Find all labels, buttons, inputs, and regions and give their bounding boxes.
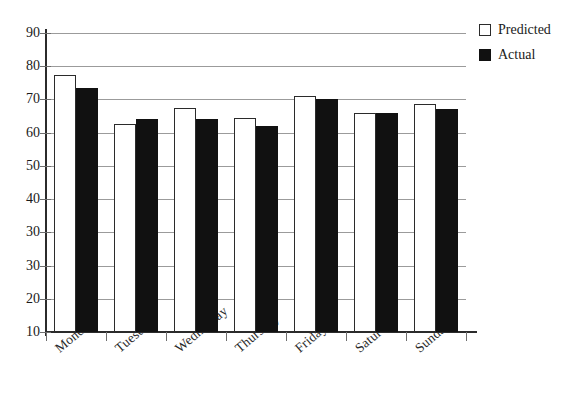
y-tick-mark (40, 99, 51, 100)
x-tick-mark (46, 332, 47, 341)
legend-label-predicted: Predicted (498, 23, 551, 37)
x-tick-mark (346, 332, 347, 341)
y-tick-label: 70 (6, 92, 40, 106)
y-tick-mark (40, 166, 51, 167)
y-tick-mark (40, 33, 51, 34)
bar-actual-tuesday[interactable] (136, 119, 158, 332)
bar-actual-wednesday[interactable] (196, 119, 218, 332)
y-tick-mark (40, 299, 51, 300)
legend-item-predicted[interactable]: Predicted (479, 22, 563, 38)
x-tick-mark (226, 332, 227, 341)
y-tick-label: 20 (6, 292, 40, 306)
bar-actual-monday[interactable] (76, 88, 98, 332)
legend-item-actual[interactable]: Actual (479, 47, 563, 63)
y-axis-labels: 90807060504030302010 (0, 0, 40, 412)
x-tick-mark (166, 332, 167, 341)
bar-group (346, 33, 406, 332)
y-tick-label: 10 (6, 325, 40, 339)
y-tick-label: 50 (6, 159, 40, 173)
bar-chart: 90807060504030302010 Predicted Actual Mo… (0, 0, 563, 412)
y-tick-mark (40, 66, 51, 67)
y-tick-mark (40, 266, 51, 267)
bar-predicted-saturday[interactable] (354, 113, 376, 332)
y-tick-label: 80 (6, 59, 40, 73)
bar-group (166, 33, 226, 332)
bar-predicted-thursday[interactable] (234, 118, 256, 332)
bar-group (406, 33, 466, 332)
y-tick-mark (40, 232, 51, 233)
bar-actual-friday[interactable] (316, 99, 338, 332)
bar-group (226, 33, 286, 332)
y-tick-label: 90 (6, 26, 40, 40)
bar-predicted-monday[interactable] (54, 75, 76, 332)
x-tick-mark (466, 332, 467, 341)
bar-group (286, 33, 346, 332)
chart-title-fragment (180, 0, 220, 2)
bar-actual-saturday[interactable] (376, 113, 398, 332)
y-tick-label: 30 (6, 225, 40, 239)
chart-legend: Predicted Actual (479, 22, 563, 72)
bar-group (46, 33, 106, 332)
bar-actual-sunday[interactable] (436, 109, 458, 332)
y-tick-label: 40 (6, 192, 40, 206)
bar-predicted-tuesday[interactable] (114, 124, 136, 332)
y-tick-label: 30 (6, 259, 40, 273)
bar-predicted-wednesday[interactable] (174, 108, 196, 332)
bar-predicted-sunday[interactable] (414, 104, 436, 332)
bar-predicted-friday[interactable] (294, 96, 316, 332)
x-tick-mark (406, 332, 407, 341)
x-tick-mark (286, 332, 287, 341)
bar-actual-thursday[interactable] (256, 126, 278, 332)
legend-swatch-predicted (479, 24, 491, 36)
y-tick-label: 60 (6, 126, 40, 140)
plot-area (46, 33, 466, 332)
y-tick-mark (40, 133, 51, 134)
bar-group (106, 33, 166, 332)
legend-swatch-actual (479, 49, 491, 61)
y-tick-mark (40, 199, 51, 200)
x-tick-mark (106, 332, 107, 341)
legend-label-actual: Actual (498, 48, 535, 62)
